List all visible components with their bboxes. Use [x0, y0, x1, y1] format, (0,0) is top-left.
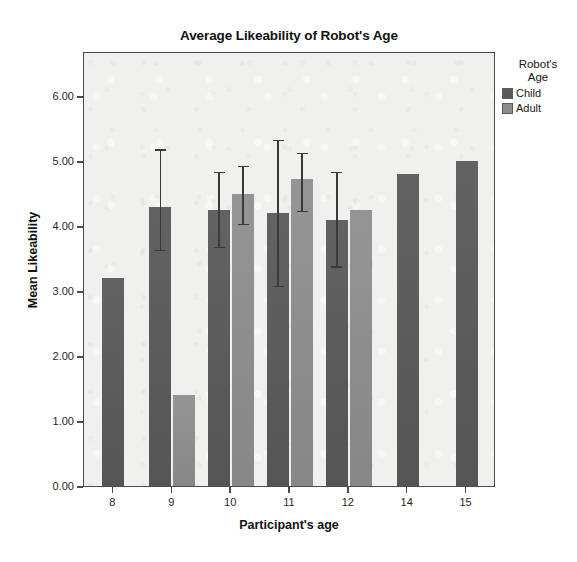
x-axis-tick — [347, 487, 348, 493]
error-bar-cap — [273, 140, 284, 141]
y-axis-title: Mean Likeability — [26, 165, 40, 355]
x-axis-tick — [229, 487, 230, 493]
y-axis-tick-label: 3.00 — [26, 285, 74, 297]
bar — [397, 174, 419, 486]
bar — [232, 194, 254, 487]
error-bar-cap — [331, 266, 342, 267]
x-axis-tick — [288, 487, 289, 493]
y-axis-tick — [77, 226, 83, 227]
x-axis-tick-label: 14 — [382, 496, 432, 508]
y-axis-tick-label: 0.00 — [26, 480, 74, 492]
error-bar — [160, 150, 161, 251]
error-bar — [336, 173, 337, 267]
chart-title: Average Likeability of Robot's Age — [83, 28, 495, 43]
y-axis-tick-label: 1.00 — [26, 415, 74, 427]
error-bar-cap — [297, 153, 308, 154]
y-axis-tick — [77, 161, 83, 162]
error-bar-cap — [214, 172, 225, 173]
error-bar — [218, 173, 219, 248]
bar — [350, 210, 372, 486]
x-axis-tick-label: 8 — [87, 496, 137, 508]
error-bar-cap — [297, 211, 308, 212]
x-axis-tick-label: 12 — [323, 496, 373, 508]
legend-title: Robot's Age — [502, 58, 574, 84]
x-axis-tick-label: 11 — [264, 496, 314, 508]
error-bar-cap — [238, 224, 249, 225]
error-bar — [242, 166, 243, 225]
x-axis-tick — [112, 487, 113, 493]
legend-entries: ChildAdult — [502, 88, 574, 114]
legend-color-swatch — [502, 103, 513, 114]
legend-item[interactable]: Child — [502, 88, 574, 99]
x-axis-tick-label: 15 — [441, 496, 491, 508]
x-axis-tick-label: 9 — [146, 496, 196, 508]
bar — [291, 179, 313, 486]
y-axis-tick-label: 4.00 — [26, 220, 74, 232]
x-axis-tick — [171, 487, 172, 493]
x-axis-title: Participant's age — [83, 518, 495, 532]
legend-color-swatch — [502, 88, 513, 99]
chart-figure: Average Likeability of Robot's Age Mean … — [0, 0, 577, 562]
y-axis-tick — [77, 421, 83, 422]
error-bar-cap — [214, 247, 225, 248]
error-bar — [277, 140, 278, 286]
y-axis-tick-label: 6.00 — [26, 90, 74, 102]
x-axis-tick — [465, 487, 466, 493]
bar — [208, 210, 230, 486]
y-axis-tick — [77, 356, 83, 357]
error-bar — [301, 153, 302, 212]
x-axis-tick-label: 10 — [205, 496, 255, 508]
error-bar-cap — [331, 172, 342, 173]
y-axis-tick — [77, 96, 83, 97]
bar — [173, 395, 195, 486]
y-axis-tick-label: 5.00 — [26, 155, 74, 167]
error-bar-cap — [155, 250, 166, 251]
error-bar-cap — [155, 149, 166, 150]
legend: Robot's Age ChildAdult — [502, 58, 574, 114]
plot-background-texture — [84, 53, 494, 486]
bar — [102, 278, 124, 486]
y-axis-tick-label: 2.00 — [26, 350, 74, 362]
x-axis-tick — [406, 487, 407, 493]
y-axis-tick — [77, 291, 83, 292]
bar — [456, 161, 478, 486]
y-axis-tick — [77, 486, 83, 487]
error-bar-cap — [273, 286, 284, 287]
plot-area — [83, 52, 495, 487]
legend-item-label: Adult — [516, 103, 541, 114]
legend-item-label: Child — [516, 88, 541, 99]
legend-item[interactable]: Adult — [502, 103, 574, 114]
error-bar-cap — [238, 166, 249, 167]
